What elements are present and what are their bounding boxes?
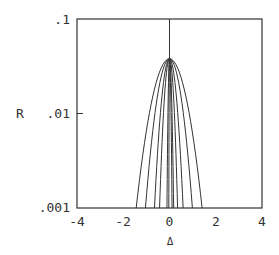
- x-tick-label--4: -4: [69, 214, 85, 229]
- chart: .1 .01 .001 R -4 -2 0 2 4 Δ: [0, 0, 279, 255]
- x-tick-label--2: -2: [115, 214, 131, 229]
- x-tick-label-4: 4: [258, 214, 266, 229]
- x-tick-label-0: 0: [166, 214, 174, 229]
- x-axis-label: Δ: [167, 235, 174, 248]
- x-tick-label-2: 2: [212, 214, 220, 229]
- y-tick-label-0.001: .001: [39, 200, 70, 215]
- y-tick-label-0.1: .1: [54, 12, 70, 27]
- y-axis-label: R: [16, 106, 24, 121]
- curve-group: [136, 59, 202, 208]
- y-tick-label-0.01: .01: [47, 106, 70, 121]
